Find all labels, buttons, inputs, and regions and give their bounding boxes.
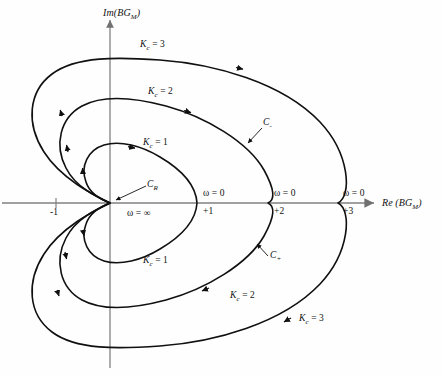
label-c-r: CR [147,180,158,192]
y-axis-label-text: Im(BG [103,7,131,18]
c-plus-leader-line [257,244,268,256]
curve-label-value: = 1 [153,255,168,265]
curve-label-kc-2-upper: Kc = 2 [148,87,173,99]
curve-label-kc-1-upper: Kc = 1 [143,138,168,150]
label-omega-zero-2: ω = 0 [274,189,296,199]
c-minus-leader-line [248,128,262,143]
curve-label-value: = 3 [150,39,165,49]
curve-label-kc-3-upper: Kc = 3 [140,40,165,52]
y-axis-label: Im(BGM) [103,8,140,21]
label-omega-zero-1: ω = 0 [203,189,225,199]
label-c-minus: C- [263,118,272,130]
label-crossing-1: +1 [203,207,213,217]
curve-label-kc-1-lower: Kc = 1 [143,256,168,268]
cr-leader-line [116,186,146,200]
label-crossing-2: +2 [274,207,284,217]
label-omega-zero-3: ω = 0 [343,189,365,199]
label-c-plus: C+ [270,251,281,263]
label-crossing-3: +3 [343,207,353,217]
y-axis-label-tail: ) [137,7,140,18]
curve-label-kc-2-lower: Kc = 2 [230,291,255,303]
x-tick-label-minus-1: -1 [50,208,58,218]
nyquist-figure: Im(BGM) Re (BGM) -1 Kc = 3 Kc = 2 Kc = 1… [0,0,442,376]
x-axis-label: Re (BGM) [382,198,422,211]
x-axis-label-tail: ) [418,197,421,208]
curve-label-value: = 2 [240,290,255,300]
x-axis-label-text: Re (BG [382,197,412,208]
c-minus-sub: - [269,122,271,130]
c-r-sub: R [153,184,157,192]
curve-label-value: = 3 [309,313,324,323]
label-omega-infinity: ω = ∞ [127,209,151,219]
c-plus-sub: + [276,255,281,263]
curve-label-value: = 1 [153,137,168,147]
curve-label-kc-3-lower: Kc = 3 [299,314,324,326]
curve-label-value: = 2 [158,86,173,96]
